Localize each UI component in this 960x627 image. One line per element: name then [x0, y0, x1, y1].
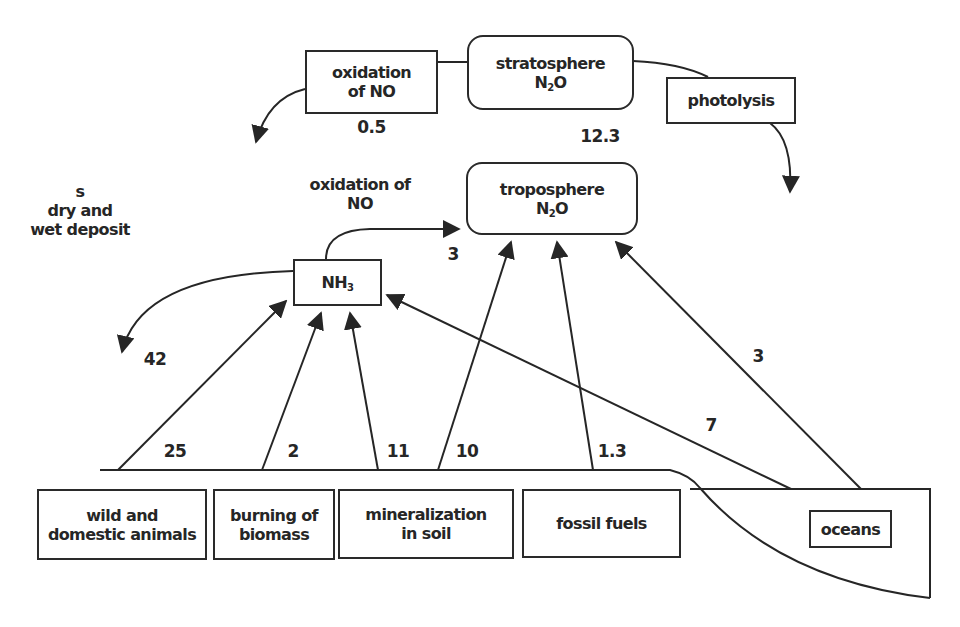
nh3-sub: 3: [347, 282, 353, 293]
photolysis-box: photolysis: [666, 77, 796, 124]
value-fossil-to-trop: 1.3: [597, 442, 627, 461]
photolysis-label: photolysis: [688, 91, 775, 110]
nitrogen-cycle-diagram: oxidation of NO stratosphere N2O photoly…: [0, 0, 960, 627]
source-line1: burning of: [230, 506, 318, 525]
value-soil-to-trop: 10: [452, 442, 482, 461]
stratosphere-formula: N2O: [534, 73, 566, 92]
oxidation-mid-label: oxidation of NO: [300, 175, 420, 213]
formula-o: O: [554, 73, 567, 92]
value-strat-to-trop: 12.3: [570, 127, 630, 146]
deposit-line1: s: [20, 182, 140, 201]
troposphere-formula: N2O: [536, 199, 568, 218]
arrow-oxidation-outflow: [256, 89, 305, 142]
source-oceans: oceans: [809, 510, 892, 548]
source-line1: fossil fuels: [556, 514, 647, 533]
formula-n: N: [536, 199, 549, 218]
source-line1: oceans: [821, 520, 880, 539]
arrow-animals-to-nh3: [118, 301, 286, 470]
value-nh3-to-trop: 3: [443, 245, 463, 264]
arrow-nh3-to-troposphere: [326, 229, 459, 259]
value-oceans-to-nh3: 7: [701, 416, 721, 435]
deposit-line3: wet deposit: [20, 220, 140, 239]
connector-stratosphere-photolysis: [633, 61, 708, 77]
source-burning-biomass: burning of biomass: [213, 489, 335, 560]
nh3-formula: NH3: [322, 273, 354, 292]
value-animals-to-nh3: 25: [160, 442, 190, 461]
troposphere-n2o-box: troposphere N2O: [466, 162, 638, 235]
value-biomass-to-nh3: 2: [283, 442, 303, 461]
source-line1: mineralization: [365, 505, 486, 524]
source-fossil-fuels: fossil fuels: [522, 489, 681, 558]
value-oxidation-top: 0.5: [305, 118, 438, 137]
source-line2: biomass: [239, 525, 309, 544]
source-line2: in soil: [401, 524, 451, 543]
nh3-box: NH3: [293, 259, 382, 306]
stratosphere-label: stratosphere: [496, 54, 605, 73]
source-line1: wild and: [86, 506, 158, 525]
arrow-oceans-to-nh3: [387, 295, 791, 489]
oxidation-of-no-top-box: oxidation of NO: [305, 50, 438, 114]
source-mineralization-soil: mineralization in soil: [338, 489, 514, 559]
formula-o: O: [555, 199, 568, 218]
oxidation-mid-line2: NO: [300, 194, 420, 213]
troposphere-label: troposphere: [500, 180, 604, 199]
stratosphere-n2o-box: stratosphere N2O: [467, 35, 634, 110]
oxidation-top-line1: oxidation: [332, 63, 411, 82]
arrow-soil-to-nh3: [350, 313, 378, 470]
source-wild-domestic-animals: wild and domestic animals: [37, 489, 207, 560]
deposit-line2: dry and: [20, 201, 140, 220]
value-oceans-to-trop: 3: [748, 347, 768, 366]
oxidation-mid-line1: oxidation of: [300, 175, 420, 194]
source-line2: domestic animals: [48, 525, 196, 544]
arrow-oceans-to-troposphere: [616, 242, 861, 489]
formula-n: N: [534, 73, 547, 92]
arrow-photolysis-outflow: [770, 123, 790, 192]
deposit-label: s dry and wet deposit: [20, 182, 140, 239]
value-soil-to-nh3: 11: [383, 442, 413, 461]
arrow-fossil-to-troposphere: [557, 242, 593, 470]
nh3-main: NH: [322, 273, 348, 292]
arrow-soil-to-troposphere: [438, 242, 511, 470]
value-deposition: 42: [140, 350, 170, 369]
oxidation-top-line2: of NO: [348, 82, 396, 101]
arrow-deposition: [122, 271, 293, 352]
